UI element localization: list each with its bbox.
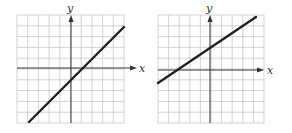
right-y-arrow-icon — [208, 15, 213, 22]
right-grid — [158, 15, 264, 123]
right-plotted-line — [158, 17, 256, 83]
graphs-figure: x y x y — [0, 0, 292, 133]
left-graph: x y — [17, 2, 146, 123]
left-y-label: y — [66, 2, 74, 15]
right-graph: x y — [158, 2, 274, 123]
right-x-arrow-icon — [257, 68, 264, 73]
right-x-label: x — [267, 64, 274, 77]
left-x-label: x — [139, 62, 146, 75]
left-plotted-line — [29, 27, 124, 122]
right-y-label: y — [205, 2, 213, 15]
left-y-arrow-icon — [69, 15, 74, 22]
left-x-arrow-icon — [130, 66, 137, 71]
